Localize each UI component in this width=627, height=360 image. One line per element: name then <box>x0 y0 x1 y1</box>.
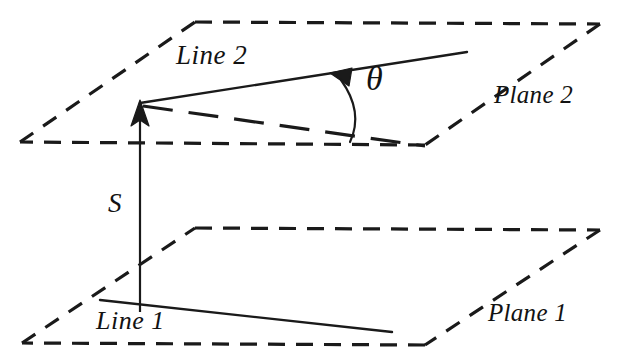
projection-line-dashed <box>143 106 425 146</box>
label-theta: θ <box>366 62 383 96</box>
plane-2-edge-bottom <box>20 142 425 145</box>
label-plane-1: Plane 1 <box>488 300 567 325</box>
label-spacing-s: S <box>108 190 122 217</box>
label-line-2: Line 2 <box>176 42 247 69</box>
label-line-1: Line 1 <box>96 308 165 334</box>
plane-2-edge-left <box>20 22 195 142</box>
plane-1-edge-right <box>425 230 600 345</box>
plane-1-edge-top <box>195 228 600 230</box>
label-plane-2: Plane 2 <box>494 82 573 107</box>
line-2-arrowhead <box>330 68 352 86</box>
angle-arc-theta <box>341 80 355 142</box>
geometry-diagram: Line 2 Plane 2 θ S Line 1 Plane 1 <box>0 0 627 360</box>
plane-1-edge-bottom <box>22 343 425 345</box>
plane-2-edge-top <box>195 22 600 24</box>
